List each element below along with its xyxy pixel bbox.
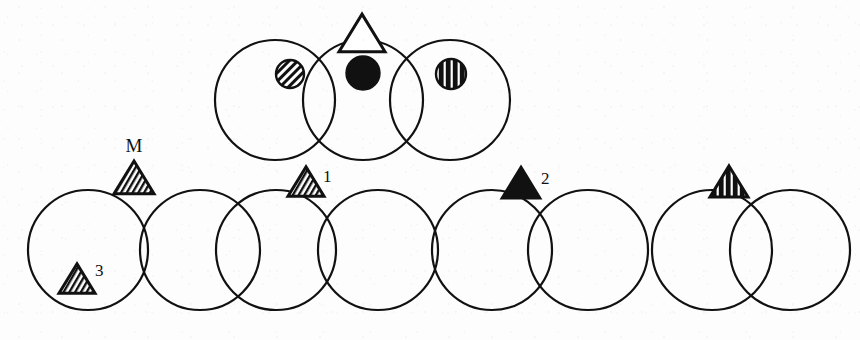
label-three: 3 bbox=[95, 261, 104, 280]
figure-canvas: M312 bbox=[0, 0, 860, 340]
marker-triangle-striped bbox=[710, 166, 748, 197]
top-marker-group bbox=[276, 14, 466, 90]
marker-triangle-m bbox=[114, 161, 154, 194]
circles-diagram: M312 bbox=[0, 0, 860, 340]
bottom-circle-7 bbox=[652, 190, 772, 310]
marker-triangle-2 bbox=[501, 166, 541, 199]
bottom-circle-6 bbox=[528, 190, 648, 310]
marker-hatched-circle bbox=[276, 60, 304, 88]
marker-label-group: M312 bbox=[95, 135, 550, 280]
marker-striped-circle bbox=[436, 59, 466, 89]
bottom-circle-5 bbox=[432, 190, 552, 310]
label-one: 1 bbox=[323, 167, 332, 186]
bottom-circle-8 bbox=[730, 190, 850, 310]
label-two: 2 bbox=[541, 169, 550, 188]
marker-triangle-3 bbox=[59, 264, 95, 293]
bottom-circle-group bbox=[28, 190, 850, 310]
bottom-circle-2 bbox=[140, 190, 260, 310]
marker-solid-circle bbox=[346, 56, 380, 90]
marker-open-triangle bbox=[339, 14, 385, 52]
label-m: M bbox=[126, 135, 143, 156]
marker-triangle-1 bbox=[288, 167, 324, 196]
top-circle-1 bbox=[215, 40, 335, 160]
